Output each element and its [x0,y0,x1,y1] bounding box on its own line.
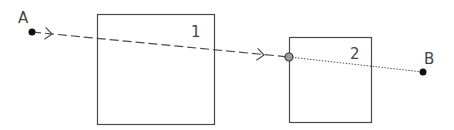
junction-circle-icon [285,53,293,61]
box-1: 1 [98,15,215,125]
box-1-label: 1 [191,23,201,41]
dashed-segment-a-to-junction [32,32,289,57]
point-a-dot-icon [29,29,36,36]
point-b-label: B [424,50,434,68]
point-b: B [420,50,435,76]
box-2: 2 [290,38,372,123]
junction-point [285,53,293,61]
point-a-label: A [18,9,29,27]
point-b-dot-icon [420,69,427,76]
path-diagram: 1 2 A B [0,0,454,130]
box-2-label: 2 [350,45,360,63]
point-a: A [18,9,36,36]
